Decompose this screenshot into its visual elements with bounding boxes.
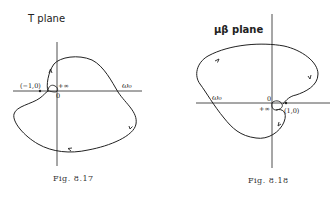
- figure-8-17: T plane (−1,0) +∞ 0 ω₀ Fig. 8.17: [13, 13, 142, 183]
- small-loop: [272, 101, 283, 110]
- infinity-label: +∞: [58, 82, 69, 90]
- nyquist-locus: [14, 57, 136, 152]
- origin-label: 0: [267, 95, 271, 103]
- direction-arrow-icon: [278, 122, 281, 126]
- infinity-label: +∞: [259, 105, 270, 113]
- figure-8-18: μβ plane (1,0) 0 +∞ ω₀ Fig. 8.18: [196, 14, 330, 185]
- t-plane-title: T plane: [27, 13, 65, 24]
- critical-point-dot: [285, 102, 287, 104]
- nyquist-locus: [197, 44, 318, 138]
- critical-point-dot: [39, 90, 41, 92]
- omega-label: ω₀: [122, 81, 133, 90]
- direction-arrow-icon: [129, 126, 133, 129]
- critical-point-label: (1,0): [284, 107, 300, 115]
- mubeta-plane-title: μβ plane: [214, 24, 263, 35]
- figures-canvas: T plane (−1,0) +∞ 0 ω₀ Fig. 8.17 μβ plan…: [0, 0, 335, 197]
- direction-arrow-icon: [215, 59, 219, 63]
- figure-caption: Fig. 8.17: [53, 174, 94, 183]
- direction-arrow-icon: [308, 75, 311, 79]
- direction-arrow-icon: [68, 148, 72, 151]
- origin-label: 0: [56, 92, 60, 100]
- figure-caption: Fig. 8.18: [248, 176, 289, 185]
- omega-label: ω₀: [212, 93, 223, 102]
- critical-point-label: (−1,0): [20, 82, 41, 90]
